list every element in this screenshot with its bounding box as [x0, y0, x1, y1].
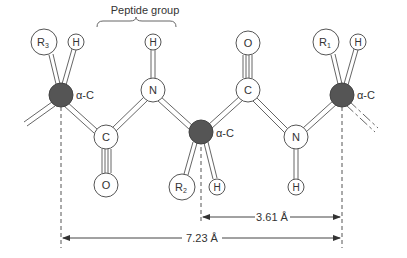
atom-r2: R2 — [169, 174, 195, 200]
svg-text:N: N — [292, 131, 300, 143]
atom-h-alpha-right: H — [350, 34, 366, 50]
atom-n-top: N — [141, 78, 165, 102]
diagram-canvas: Peptide group — [0, 0, 407, 258]
svg-text:N: N — [149, 84, 157, 96]
dimension-short: 3.61 Å — [203, 211, 340, 223]
atom-h-n-bottom: H — [288, 179, 304, 195]
svg-text:O: O — [102, 179, 111, 191]
atom-alpha-carbon-left: α-C — [49, 83, 94, 107]
svg-text:O: O — [244, 37, 253, 49]
atom-r1: R1 — [313, 29, 339, 55]
svg-text:H: H — [292, 182, 299, 193]
distance-label-long: 7.23 Å — [186, 232, 218, 244]
atom-carbonyl-c-left: C — [94, 125, 118, 149]
peptide-group-brace — [97, 17, 176, 27]
atom-carbonyl-c-right: C — [236, 78, 260, 102]
atom-alpha-carbon-mid: α-C — [189, 120, 234, 144]
dimension-long: 7.23 Å — [63, 232, 340, 244]
side-bonds — [49, 49, 358, 179]
atom-alpha-carbon-right: α-C — [330, 83, 375, 107]
atom-h-alpha-left: H — [68, 34, 84, 50]
svg-text:C: C — [102, 131, 110, 143]
svg-text:H: H — [213, 182, 220, 193]
peptide-diagram: Peptide group — [0, 0, 407, 258]
alpha-c-label-left: α-C — [76, 89, 94, 101]
distance-label-short: 3.61 Å — [256, 211, 288, 223]
atom-r3: R3 — [31, 29, 57, 55]
alpha-c-label-right: α-C — [357, 89, 375, 101]
atom-o-left: O — [94, 173, 118, 197]
atom-n-bottom: N — [284, 125, 308, 149]
alpha-c-label-mid: α-C — [216, 127, 234, 139]
peptide-group-label: Peptide group — [111, 4, 180, 16]
svg-text:C: C — [244, 84, 252, 96]
svg-text:H: H — [354, 37, 361, 48]
svg-text:H: H — [72, 37, 79, 48]
atom-h-n-top: H — [145, 34, 161, 50]
atom-o-right: O — [236, 31, 260, 55]
atom-h-alpha-mid: H — [209, 179, 225, 195]
svg-text:H: H — [149, 37, 156, 48]
